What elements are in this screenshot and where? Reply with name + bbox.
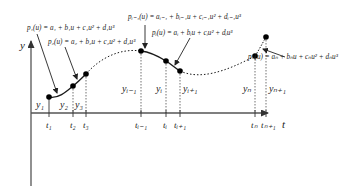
pointer-arrow-pi	[175, 38, 190, 65]
curve-dotted-2	[180, 56, 255, 75]
point-i	[163, 58, 169, 64]
equation-p2: p₂(u) = a₂ + b₂u + c₂u² + d₂u³	[48, 39, 135, 46]
equation-pi-1: pᵢ₋₁(u) = aᵢ₋₁ + bᵢ₋₁u + cᵢ₋₁u² + dᵢ₋₁u³	[128, 14, 241, 21]
t-label-n+1: tₙ₊₁	[261, 121, 276, 130]
y-label-i-1: yᵢ₋₁	[122, 84, 137, 94]
t-label-1: t₁	[46, 121, 52, 130]
y-label-1: y₁	[36, 100, 44, 110]
guide-lines	[73, 37, 266, 113]
pointer-arrow-p2	[65, 47, 77, 79]
y-label-2: y₂	[60, 100, 68, 110]
point-i-1	[138, 48, 144, 54]
point-n+1	[263, 34, 269, 40]
point-2	[70, 83, 76, 89]
t-label-i: tᵢ	[163, 121, 167, 130]
equation-pn: pₙ(u) = aₙ + bₙu + cₙu² + dₙu³	[248, 54, 338, 61]
curve-dotted-1	[86, 50, 141, 74]
spline-diagram: y t p₁(u) = a₁ + b₁u + c₁u² + d₁u³ p₂(u)…	[0, 0, 355, 194]
y-label-n+1: yₙ₊₁	[269, 84, 286, 94]
curve-segment-i-1	[141, 51, 166, 61]
t-label-2: t₂	[70, 121, 76, 130]
y-label-i: yᵢ	[156, 84, 162, 94]
y-label-i+1: yᵢ₊₁	[183, 84, 198, 94]
t-label-i+1: tᵢ₊₁	[174, 121, 186, 130]
curve-segment-1	[49, 86, 73, 97]
y-label-n: yₙ	[243, 84, 251, 94]
equation-p1: p₁(u) = a₁ + b₁u + c₁u² + d₁u³	[27, 25, 114, 32]
t-axis-label: t	[282, 119, 285, 130]
y-label-3: y₃	[75, 100, 83, 110]
equation-pi: pᵢ(u) = aᵢ + bᵢu + cᵢu² + dᵢu³	[152, 30, 233, 37]
t-label-n: tₙ	[251, 121, 258, 130]
point-1	[46, 94, 52, 100]
y-axis-label: y	[20, 40, 25, 51]
t-label-i-1: tᵢ₋₁	[135, 121, 147, 130]
point-i+1	[177, 68, 183, 74]
t-label-3: t₃	[83, 121, 89, 130]
point-3	[83, 71, 89, 77]
